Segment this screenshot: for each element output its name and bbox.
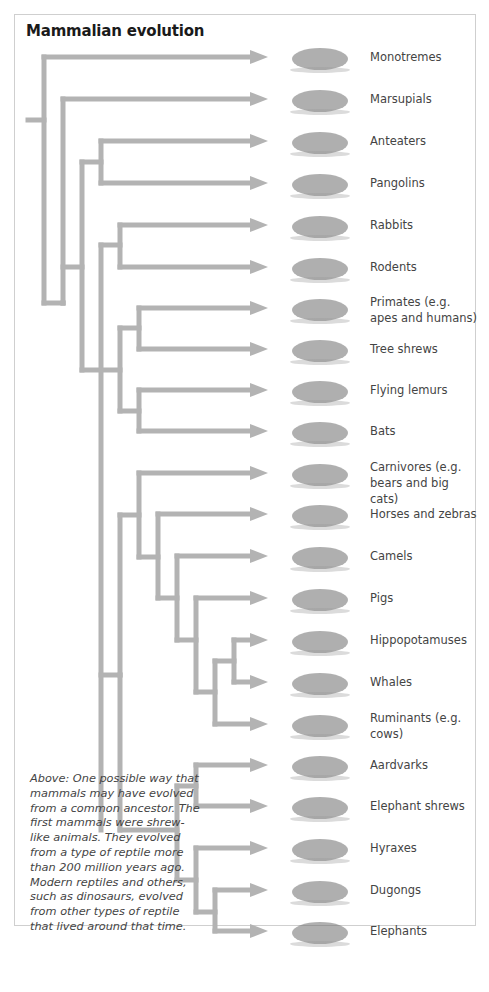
anteater-icon [275,122,365,160]
leopard-icon [275,454,365,492]
leaf-label: Rabbits [370,217,480,233]
leaf-label: Horses and zebras [370,506,480,522]
whale-icon [275,663,365,701]
leaf-label: Rodents [370,259,480,275]
hippo-icon [275,621,365,659]
leaf-label: Whales [370,674,480,690]
leaf-label: Anteaters [370,133,480,149]
elephant-icon [275,912,365,950]
dugong-icon [275,871,365,909]
flying-lemur-icon [275,371,365,409]
leaf-label: Marsupials [370,91,480,107]
tree-shrew-icon [275,330,365,368]
leaf-label: Pigs [370,590,480,606]
leaf-label: Hyraxes [370,840,480,856]
boar-icon [275,579,365,617]
leaf-label: Tree shrews [370,341,480,357]
hyrax-icon [275,829,365,867]
camel-icon [275,537,365,575]
leaf-label: Aardvarks [370,757,480,773]
rabbit-icon [275,206,365,244]
pangolin-icon [275,164,365,202]
chimpanzee-icon [275,289,365,327]
aardvark-icon [275,746,365,784]
leaf-label: Elephant shrews [370,798,480,814]
leaf-label: Monotremes [370,49,480,65]
leaf-label: Hippopotamuses [370,632,480,648]
bat-icon [275,412,365,450]
leaf-label: Dugongs [370,882,480,898]
sugar-glider-icon [275,80,365,118]
leaf-label: Carnivores (e.g. bears and big cats) [370,459,480,507]
leaf-label: Pangolins [370,175,480,191]
figure-caption: Above: One possible way that mammals may… [30,772,200,935]
leaf-label: Primates (e.g. apes and humans) [370,294,480,326]
platypus-icon [275,38,365,76]
leaf-label: Elephants [370,923,480,939]
leaf-label: Bats [370,423,480,439]
rodent-icon [275,248,365,286]
leaf-label: Ruminants (e.g. cows) [370,710,480,742]
elephant-shrew-icon [275,787,365,825]
horse-icon [275,495,365,533]
buffalo-icon [275,705,365,743]
leaf-label: Camels [370,548,480,564]
leaf-label: Flying lemurs [370,382,480,398]
